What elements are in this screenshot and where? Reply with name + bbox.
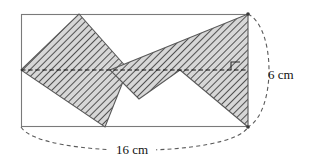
height-dimension-arc — [248, 14, 269, 127]
corner-dot-bottom-right — [246, 125, 250, 129]
figure-canvas: 16 cm 6 cm — [0, 0, 309, 166]
geometry-figure: 16 cm 6 cm — [0, 0, 309, 166]
height-label: 6 cm — [268, 67, 294, 82]
width-label: 16 cm — [116, 142, 148, 157]
corner-dot-top-right — [246, 12, 250, 16]
